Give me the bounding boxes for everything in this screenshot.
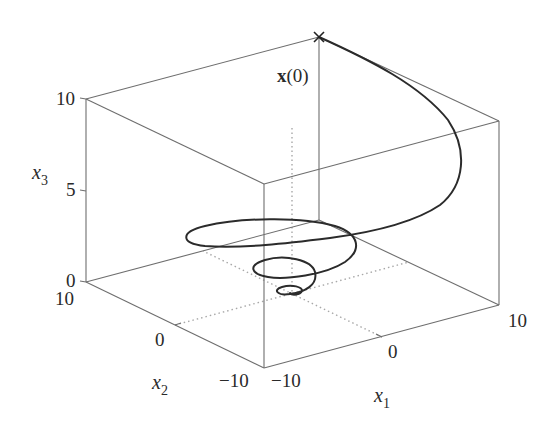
x1-tick-10: 10 [508, 311, 527, 330]
x2-axis-label: x2 [152, 372, 168, 398]
axis-box [80, 37, 499, 368]
x2-tick-0: 0 [155, 330, 165, 349]
reference-lines [175, 128, 409, 337]
x2-tick-neg10: −10 [219, 371, 249, 390]
x2-tick-10: 10 [55, 289, 74, 308]
trajectory-curve [186, 37, 461, 295]
x1-axis-label: x1 [374, 385, 390, 411]
x3-tick-5: 5 [66, 180, 76, 199]
x1-tick-0: 0 [388, 342, 398, 361]
x3-tick-10: 10 [56, 89, 75, 108]
x3-axis-label: x3 [32, 162, 48, 188]
x1-tick-neg10: −10 [271, 371, 301, 390]
initial-state-label: x(0) [277, 66, 309, 85]
